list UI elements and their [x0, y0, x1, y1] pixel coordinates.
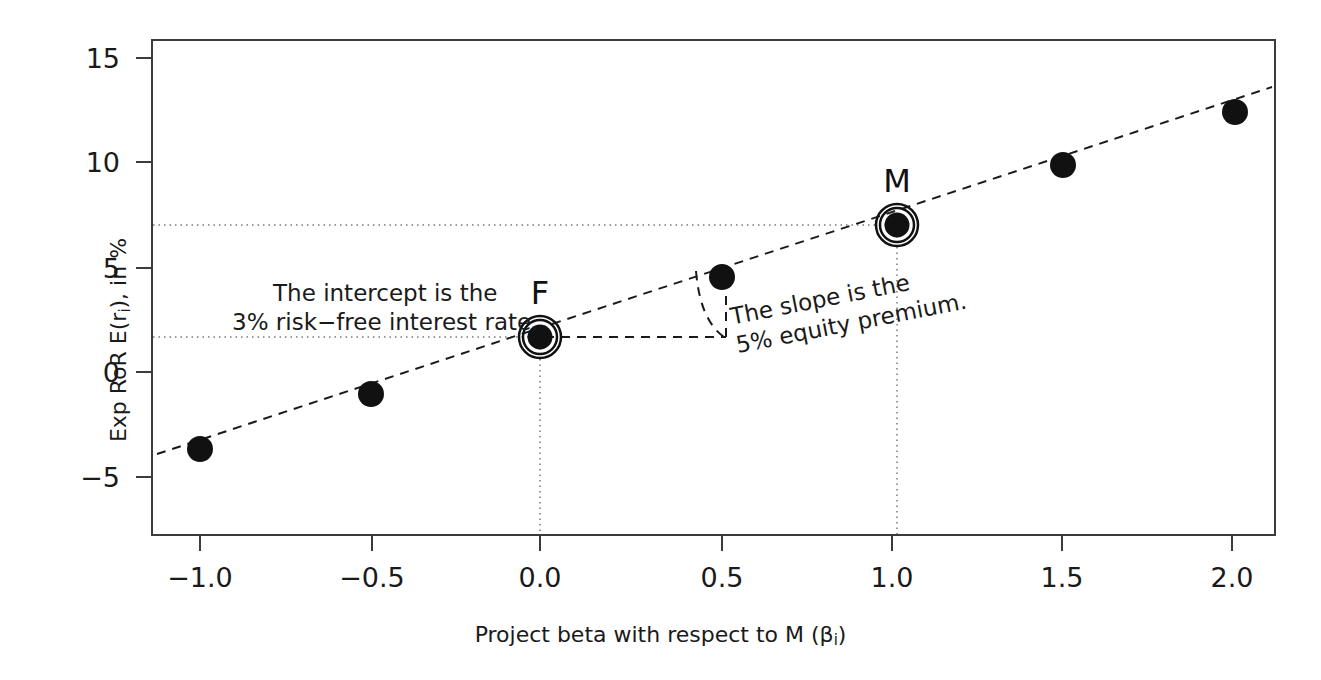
x-axis-label-suffix: ) [838, 622, 847, 647]
y-axis-label-prefix: Exp RoR E(r [106, 313, 131, 442]
y-tick-label-10: 10 [62, 147, 120, 178]
x-tick-label-0: 0.0 [519, 562, 562, 593]
annotation-intercept-line-2: 3% risk−free interest rate. [232, 308, 538, 337]
data-point [1050, 152, 1076, 178]
x-axis-label: Project beta with respect to M (βi) [0, 622, 1321, 649]
annotation-intercept-line-1: The intercept is the [232, 279, 538, 308]
data-point [187, 436, 213, 462]
y-axis-label-suffix: ), in % [106, 238, 131, 309]
y-tick-label-minus-5: −5 [52, 462, 120, 493]
annotation-intercept: The intercept is the 3% risk−free intere… [232, 279, 538, 337]
data-point [358, 381, 384, 407]
x-tick-label-1: 1.0 [871, 562, 914, 593]
x-axis-ticks [200, 535, 1232, 551]
chart-figure: 15 10 5 0 −5 −1.0 −0.5 0.0 0.5 1.0 1.5 2… [0, 0, 1321, 680]
data-point [1222, 99, 1248, 125]
x-tick-label-0-5: 0.5 [701, 562, 744, 593]
y-axis-label-subscript: i [116, 308, 134, 312]
y-axis-ticks [136, 58, 152, 477]
x-tick-label-1-5: 1.5 [1041, 562, 1084, 593]
x-tick-label-minus-0-5: −0.5 [339, 562, 405, 593]
x-tick-label-2: 2.0 [1211, 562, 1254, 593]
x-axis-label-symbol: β [820, 622, 834, 647]
y-tick-label-15: 15 [62, 43, 120, 74]
x-tick-label-minus-1: −1.0 [167, 562, 233, 593]
point-label-m: M [883, 162, 911, 200]
data-point [709, 264, 735, 290]
y-axis-label: Exp RoR E(ri), in % [106, 238, 133, 442]
x-axis-label-prefix: Project beta with respect to M ( [475, 622, 820, 647]
